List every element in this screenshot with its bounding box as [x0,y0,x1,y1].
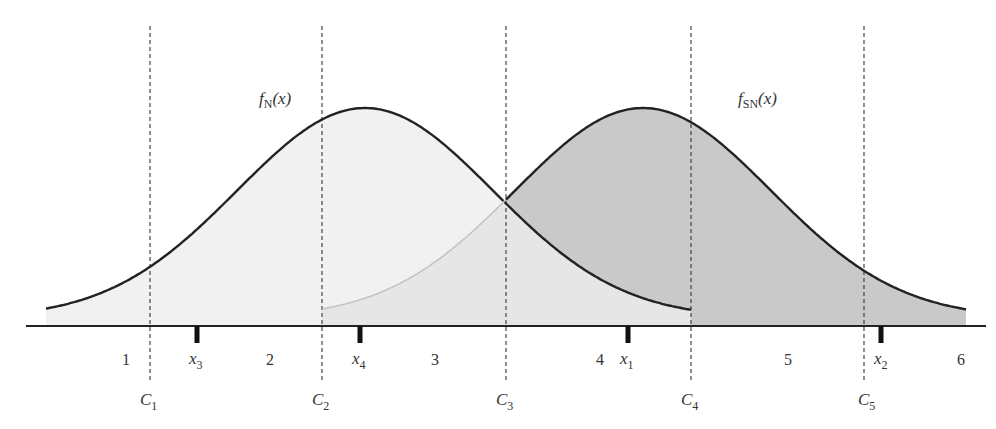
region-label-1: 1 [122,351,130,368]
fsn-sub: SN [743,97,759,111]
x2-label: x2 [873,349,888,372]
region-label-4: 4 [596,351,604,368]
c5-label: C5 [858,390,875,413]
c3-label: C3 [496,390,513,413]
observation-ticks [195,326,884,343]
tick-x2 [879,326,884,343]
c4-label: C4 [681,390,698,413]
x1-label: x1 [619,349,634,372]
fn-arg: (x) [272,89,291,108]
noise-curve-label: fN(x) [259,89,292,111]
x3-label: x3 [188,349,203,372]
fn-sub: N [264,97,273,111]
region-label-6: 6 [957,351,965,368]
fsn-arg: (x) [758,89,777,108]
region-label-5: 5 [784,351,792,368]
tick-x4 [358,326,363,343]
tick-x1 [626,326,631,343]
sdt-svg: fN(x) fSN(x) 1 2 3 4 5 6 x3 x4 x1 x2 C1 … [0,0,996,429]
x4-label: x4 [351,349,366,372]
region-label-3: 3 [431,351,439,368]
region-label-2: 2 [266,351,274,368]
c1-label: C1 [140,390,157,413]
tick-x3 [195,326,200,343]
signal-curve-label: fSN(x) [738,89,777,111]
c2-label: C2 [312,390,329,413]
sdt-figure: fN(x) fSN(x) 1 2 3 4 5 6 x3 x4 x1 x2 C1 … [0,0,996,429]
